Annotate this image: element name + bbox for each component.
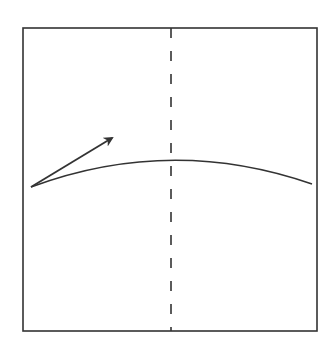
diagram-canvas (0, 0, 328, 353)
square-frame (23, 28, 317, 331)
tangent-arrow (31, 138, 112, 187)
